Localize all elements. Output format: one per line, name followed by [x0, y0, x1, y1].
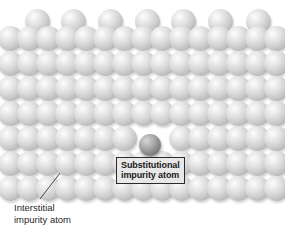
substitutional-label-line-2: impurity atom — [121, 170, 180, 180]
host-atom — [264, 151, 286, 176]
interstitial-label-line-2: impurity atom — [14, 214, 71, 226]
host-atom — [112, 126, 137, 151]
atom-lattice — [0, 0, 285, 229]
crystal-lattice-impurity-diagram: Substitutional impurity atom Interstitia… — [0, 0, 285, 229]
substitutional-impurity-label: Substitutional impurity atom — [116, 157, 185, 184]
interstitial-label-line-1: Interstitial — [14, 202, 71, 214]
interstitial-impurity-label: Interstitial impurity atom — [14, 202, 71, 225]
host-atom — [264, 51, 286, 76]
host-atom — [264, 101, 286, 126]
host-atom — [264, 126, 286, 151]
substitutional-impurity-atom — [139, 134, 161, 156]
host-atom — [264, 176, 286, 201]
substitutional-label-line-1: Substitutional — [121, 160, 180, 170]
host-atom — [264, 26, 286, 51]
host-atom — [264, 76, 286, 101]
